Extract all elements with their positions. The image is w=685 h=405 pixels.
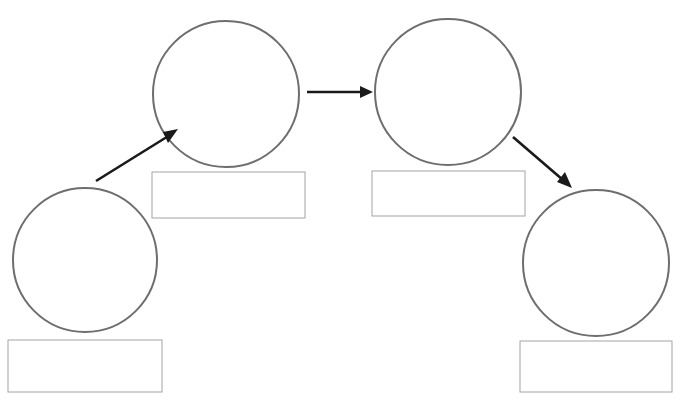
stage-two-box[interactable] — [152, 172, 305, 218]
stage-four-box[interactable] — [520, 341, 672, 392]
stage-four-circle[interactable] — [523, 190, 669, 336]
arrow-stage-two-to-stage-three — [307, 86, 373, 98]
stage-two-circle[interactable] — [153, 21, 299, 167]
diagram-svg-layer — [0, 0, 685, 405]
arrow-stage-two-to-stage-three-head — [360, 86, 373, 98]
arrow-stage-three-to-stage-four-head — [557, 172, 572, 188]
stage-one-circle[interactable] — [13, 188, 157, 332]
stage-three-box[interactable] — [372, 171, 525, 216]
stage-three-circle[interactable] — [375, 19, 521, 165]
diagram-canvas — [0, 0, 685, 405]
stage-one-box[interactable] — [8, 340, 162, 392]
